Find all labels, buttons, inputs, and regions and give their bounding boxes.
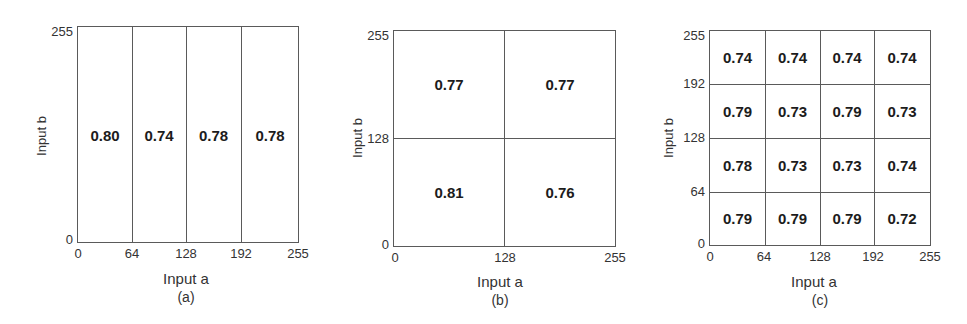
cell-value: 0.78 bbox=[710, 138, 765, 192]
cell-value: 0.79 bbox=[710, 84, 765, 138]
cell-value: 0.74 bbox=[820, 31, 874, 84]
y-tick-label: 128 bbox=[683, 130, 705, 145]
cell-value: 0.79 bbox=[710, 192, 765, 245]
y-tick-label: 192 bbox=[683, 76, 705, 91]
plot-area-c: 0.74 0.74 0.74 0.74 0.79 0.73 0.79 0.73 … bbox=[709, 30, 931, 246]
cell-value: 0.72 bbox=[874, 192, 930, 245]
x-tick-label: 64 bbox=[757, 249, 771, 264]
x-tick-label: 192 bbox=[862, 249, 884, 264]
panel-c: 0.74 0.74 0.74 0.74 0.79 0.73 0.79 0.73 … bbox=[0, 0, 967, 324]
panel-caption: (c) bbox=[812, 292, 828, 308]
y-tick-label: 255 bbox=[683, 28, 705, 43]
cell-value: 0.73 bbox=[765, 138, 820, 192]
y-axis-label: Input b bbox=[661, 118, 676, 158]
cell-value: 0.73 bbox=[765, 84, 820, 138]
cell-value: 0.79 bbox=[765, 192, 820, 245]
cell-value: 0.74 bbox=[874, 31, 930, 84]
cell-value: 0.74 bbox=[874, 138, 930, 192]
x-axis-label: Input a bbox=[791, 273, 837, 290]
cell-value: 0.74 bbox=[710, 31, 765, 84]
x-tick-label: 128 bbox=[809, 249, 831, 264]
cell-value: 0.74 bbox=[765, 31, 820, 84]
cell-value: 0.73 bbox=[874, 84, 930, 138]
cell-value: 0.79 bbox=[820, 192, 874, 245]
cell-value: 0.73 bbox=[820, 138, 874, 192]
x-tick-label: 0 bbox=[706, 249, 713, 264]
y-tick-label: 64 bbox=[691, 184, 705, 199]
x-tick-label: 255 bbox=[919, 249, 941, 264]
y-tick-label: 0 bbox=[698, 236, 705, 251]
cell-value: 0.79 bbox=[820, 84, 874, 138]
